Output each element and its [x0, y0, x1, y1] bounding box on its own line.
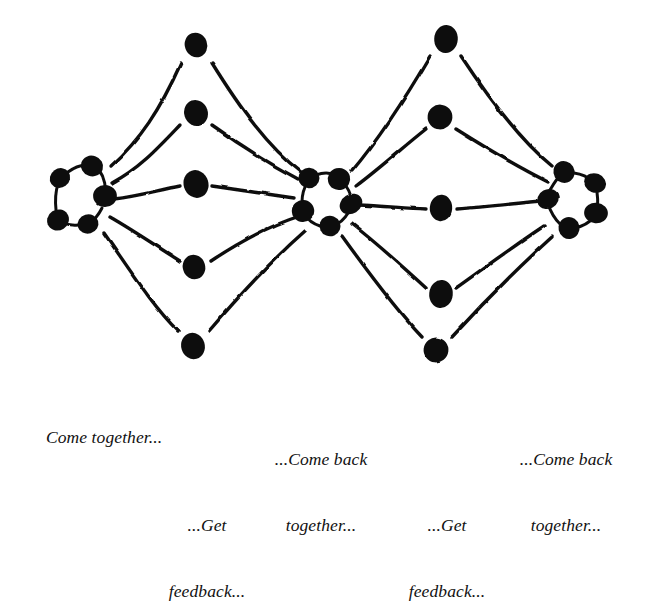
caption-come-back-together-second-line-2: together...	[520, 514, 613, 536]
column-dot-column-right-3	[429, 194, 454, 222]
edge-leftcluster-to-col1-dot1	[111, 63, 181, 166]
edge-middlecluster-to-col2-dot2	[356, 129, 426, 186]
edge-col2-dot1-to-rightcluster	[461, 56, 552, 166]
cluster-dot-cluster-right-3	[583, 202, 609, 225]
caption-get-feedback-second-line-1: ...Get	[409, 514, 485, 536]
cluster-dot-cluster-left-3	[93, 185, 117, 207]
caption-get-feedback-second-line-2: feedback...	[409, 580, 485, 602]
cluster-dot-cluster-right-2	[581, 170, 609, 196]
caption-come-back-together-second-line-1: ...Come back	[520, 448, 613, 470]
edge-col1-dot3-to-middlecluster	[212, 186, 294, 198]
edge-col2-dot2-to-rightcluster	[456, 129, 548, 182]
column-dot-column-right-1	[433, 24, 458, 53]
cluster-dot-cluster-right-4	[556, 215, 581, 241]
column-dot-column-left-5	[178, 330, 208, 362]
column-dot-column-right-5	[422, 336, 450, 364]
edge-middlecluster-to-col2-dot4	[352, 224, 426, 288]
edge-leftcluster-to-col1-dot5	[104, 233, 178, 331]
edge-group	[104, 56, 552, 337]
column-dot-column-left-3	[180, 167, 212, 201]
cluster-dot-cluster-middle-4	[317, 213, 344, 240]
edge-col1-dot2-to-middlecluster	[212, 125, 298, 179]
edge-col1-dot5-to-middlecluster	[209, 231, 305, 331]
column-dot-column-right-2	[427, 104, 453, 130]
edge-middlecluster-to-col2-dot1	[352, 56, 430, 171]
edge-col2-dot5-to-rightcluster	[452, 237, 552, 337]
edge-middlecluster-to-col2-dot5	[342, 236, 422, 337]
caption-get-feedback-first-line-1: ...Get	[169, 514, 245, 536]
caption-come-back-together-second: ...Come back together...	[520, 404, 613, 580]
caption-get-feedback-first-line-2: feedback...	[169, 580, 245, 602]
caption-get-feedback-first: ...Get feedback...	[169, 470, 245, 605]
column-dot-column-left-1	[181, 30, 211, 61]
ring-link-left-5	[56, 184, 58, 210]
edge-middlecluster-to-col2-dot3	[358, 205, 426, 209]
caption-get-feedback-second: ...Get feedback...	[409, 470, 485, 605]
edge-col2-dot3-to-rightcluster	[457, 201, 540, 209]
column-dot-column-left-4	[180, 252, 209, 282]
edge-col1-dot4-to-middlecluster	[211, 216, 300, 261]
caption-come-back-together-first-line-2: together...	[275, 514, 368, 536]
column-dot-column-right-4	[428, 279, 454, 309]
caption-come-back-together-first-line-1: ...Come back	[275, 448, 368, 470]
cluster-dot-cluster-right-5	[534, 185, 563, 213]
caption-come-together: Come together...	[28, 404, 162, 470]
caption-come-together-line-1: Come together...	[46, 427, 162, 447]
cluster-dot-cluster-left-5	[43, 205, 73, 234]
dot-group	[43, 24, 609, 363]
edge-leftcluster-to-col1-dot3	[114, 186, 180, 199]
cluster-dot-cluster-left-1	[46, 164, 74, 192]
column-dot-column-left-2	[181, 97, 212, 130]
caption-come-back-together-first: ...Come back together...	[275, 404, 368, 580]
